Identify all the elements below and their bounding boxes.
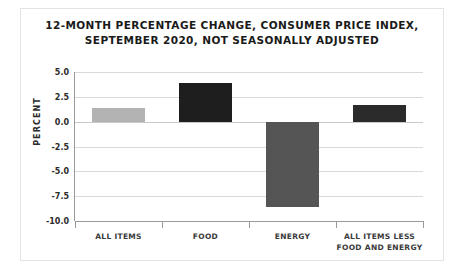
category-axis: ALL ITEMSFOODENERGYALL ITEMS LESSFOOD AN… [75, 221, 423, 265]
category-tick [423, 221, 424, 228]
gridline [75, 97, 423, 98]
category-tick [162, 221, 163, 228]
gridline [75, 196, 423, 197]
y-axis-title: PERCENT [33, 82, 42, 162]
category-label-line: ENERGY [249, 231, 336, 242]
chart-title-line-1: 12-MONTH PERCENTAGE CHANGE, CONSUMER PRI… [21, 18, 443, 33]
gridline [75, 72, 423, 73]
chart-title-line-2: SEPTEMBER 2020, NOT SEASONALLY ADJUSTED [21, 33, 443, 48]
category-label-line: ALL ITEMS LESS [336, 231, 423, 242]
gridline [75, 122, 423, 123]
category-tick [336, 221, 337, 228]
y-axis-tick-label: 5.0 [55, 68, 69, 77]
y-axis-tick-label: -2.5 [52, 142, 70, 151]
gridline [75, 147, 423, 148]
y-axis-tick-label: -10.0 [46, 217, 69, 226]
category-tick [249, 221, 250, 228]
bar-all-items [92, 108, 144, 122]
category-label: ENERGY [249, 231, 336, 242]
bar-all-items-less-food-and-energy [353, 105, 405, 122]
y-axis-tick-label: -7.5 [52, 192, 70, 201]
plot-area: 5.02.50.0-2.5-5.0-7.5-10.0 [75, 72, 423, 221]
y-axis-tick-label: 0.0 [55, 117, 69, 126]
category-tick [75, 221, 76, 228]
gridline [75, 171, 423, 172]
category-label-line: FOOD AND ENERGY [336, 242, 423, 253]
category-label: ALL ITEMS LESSFOOD AND ENERGY [336, 231, 423, 253]
chart-figure: 12-MONTH PERCENTAGE CHANGE, CONSUMER PRI… [20, 8, 444, 261]
bar-energy [266, 122, 318, 207]
category-label: ALL ITEMS [75, 231, 162, 242]
y-axis-tick-label: -5.0 [52, 167, 70, 176]
category-label: FOOD [162, 231, 249, 242]
y-axis-tick-label: 2.5 [55, 92, 69, 101]
category-label-line: FOOD [162, 231, 249, 242]
chart-title: 12-MONTH PERCENTAGE CHANGE, CONSUMER PRI… [21, 18, 443, 48]
category-label-line: ALL ITEMS [75, 231, 162, 242]
bar-food [179, 83, 231, 122]
